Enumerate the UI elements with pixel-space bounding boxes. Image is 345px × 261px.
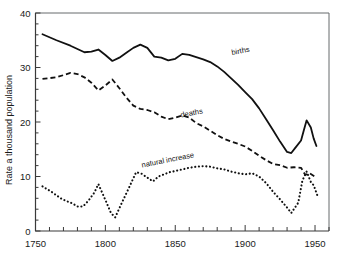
series-line-births xyxy=(42,34,316,153)
x-tick-label: 1750 xyxy=(25,238,46,249)
x-tick-label: 1800 xyxy=(95,238,116,249)
x-axis-tick-labels: 17501800185019001950 xyxy=(25,238,326,249)
x-tick-label: 1850 xyxy=(165,238,186,249)
y-axis-ticks xyxy=(36,13,41,231)
y-tick-label: 40 xyxy=(20,8,31,19)
x-axis-ticks xyxy=(36,225,330,231)
chart-container: 010203040 17501800185019001950 Rate a th… xyxy=(0,0,345,261)
births-deaths-natural-increase-line-chart: 010203040 17501800185019001950 Rate a th… xyxy=(0,0,345,261)
plot-frame xyxy=(35,13,329,231)
x-tick-label: 1950 xyxy=(304,238,325,249)
series-annotation-natural-increase: natural increase xyxy=(141,150,195,169)
y-axis-title: Rate a thousand population xyxy=(4,75,14,185)
y-tick-label: 10 xyxy=(20,171,31,182)
x-tick-label: 1900 xyxy=(235,238,256,249)
series-annotation-births: births xyxy=(231,45,251,57)
y-tick-label: 0 xyxy=(25,226,30,237)
y-axis-tick-labels: 010203040 xyxy=(20,8,31,237)
chart-axes xyxy=(35,13,329,231)
series-annotation-deaths: deaths xyxy=(180,106,204,119)
y-tick-label: 20 xyxy=(20,117,31,128)
series-line-natural-increase xyxy=(42,166,317,217)
series-annotations: birthsdeathsnatural increase xyxy=(141,45,251,170)
data-series-group xyxy=(42,34,317,217)
y-tick-label: 30 xyxy=(20,62,31,73)
